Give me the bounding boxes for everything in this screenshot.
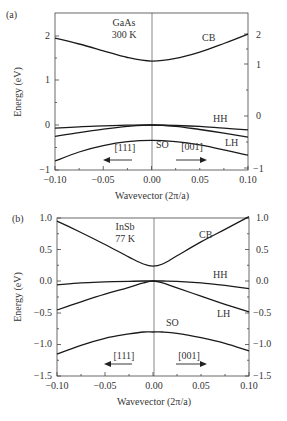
- band-curve-cb: [57, 217, 249, 267]
- band-label-lh-a: LH: [225, 137, 238, 148]
- xtick-b: 0.05: [192, 380, 210, 391]
- ytick-right-b: −0.5: [253, 307, 271, 318]
- panel-a: (a) −1 0 1 2 −1 0 1 2 −0.10 −0.05 0.00 0…: [6, 9, 264, 202]
- band-curve-cb: [55, 34, 248, 61]
- arrow-left-icon: [103, 157, 132, 163]
- band-label-lh-b: LH: [217, 308, 230, 319]
- plot-frame-b: [57, 218, 249, 376]
- xtick-a: 0.05: [191, 174, 209, 185]
- ytick-left-a: 2: [45, 30, 50, 41]
- direction-label-111-a: [111]: [115, 142, 136, 153]
- ytick-right-b: 0.5: [256, 244, 269, 255]
- xtick-b: 0.10: [240, 380, 258, 391]
- band-structure-figure: (a) −1 0 1 2 −1 0 1 2 −0.10 −0.05 0.00 0…: [0, 0, 287, 421]
- band-curve-hh: [55, 125, 248, 130]
- axis-ticks-a: [55, 34, 248, 170]
- panel-label-b: (b): [12, 213, 24, 225]
- material-label-b: InSb: [116, 221, 135, 232]
- panel-label-a: (a): [6, 9, 17, 21]
- material-label-a: GaAs: [113, 17, 136, 28]
- band-label-so-a: SO: [156, 139, 169, 150]
- xtick-a: 0.00: [143, 174, 161, 185]
- ytick-right-b: −1.0: [253, 338, 271, 349]
- plot-frame-a: [55, 13, 248, 170]
- xtick-b: −0.10: [45, 380, 68, 391]
- band-label-so-b: SO: [166, 317, 179, 328]
- ytick-left-b: −1.0: [34, 338, 52, 349]
- ytick-right-b: 1.0: [256, 212, 269, 223]
- ytick-right-b: 0.0: [256, 275, 269, 286]
- ytick-right-a: −1: [253, 163, 264, 174]
- arrow-right-icon: [176, 157, 207, 163]
- xtick-a: 0.10: [239, 174, 257, 185]
- ytick-left-b: 0.5: [40, 244, 53, 255]
- direction-label-001-b: [001]: [178, 350, 200, 361]
- panel-b: (b) −1.5 −1.0 −0.5 0.0 0.5 1.0 −1.5 −1.0…: [12, 212, 271, 408]
- band-curve-hh: [57, 281, 249, 289]
- arrow-right-icon: [176, 361, 207, 367]
- band-label-cb-b: CB: [199, 229, 213, 240]
- band-label-cb-a: CB: [202, 32, 216, 43]
- direction-label-111-b: [111]: [114, 350, 135, 361]
- direction-label-001-a: [001]: [181, 141, 203, 152]
- temperature-label-b: 77 K: [115, 233, 136, 244]
- x-axis-label-a: Wavevector (2π/a): [115, 190, 189, 202]
- xtick-a: −0.10: [43, 174, 66, 185]
- y-axis-label-a: Energy (eV): [12, 67, 24, 117]
- x-axis-label-b: Wavevector (2π/a): [117, 396, 191, 408]
- ytick-left-b: −0.5: [34, 307, 52, 318]
- arrow-left-icon: [104, 361, 132, 367]
- axis-ticks-b: [57, 218, 249, 376]
- y-axis-label-b: Energy (eV): [12, 272, 24, 322]
- ytick-left-b: 1.0: [40, 212, 53, 223]
- ytick-left-a: 1: [45, 74, 50, 85]
- ytick-right-a: 1: [256, 59, 261, 70]
- band-label-hh-a: HH: [213, 113, 227, 124]
- ytick-left-a: 0: [45, 119, 50, 130]
- band-curves-b: [57, 217, 249, 354]
- xtick-b: −0.05: [93, 380, 116, 391]
- band-curve-so: [55, 140, 248, 161]
- ytick-right-a: 0: [256, 110, 261, 121]
- band-curve-so: [57, 332, 249, 354]
- xtick-b: 0.00: [145, 380, 163, 391]
- band-label-hh-b: HH: [213, 269, 227, 280]
- temperature-label-a: 300 K: [112, 29, 138, 40]
- ytick-left-b: 0.0: [40, 275, 53, 286]
- xtick-a: −0.05: [91, 174, 114, 185]
- ytick-right-a: 2: [256, 29, 261, 40]
- band-curves-a: [55, 34, 248, 161]
